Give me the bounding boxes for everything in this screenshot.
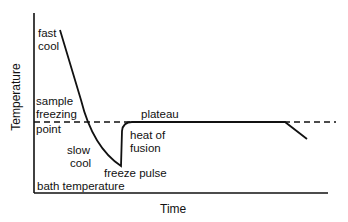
sample-freezing-point-label-line2: freezing: [36, 108, 77, 120]
heat-of-fusion-label-line2: fusion: [130, 142, 161, 154]
fast-cool-label-line2: cool: [38, 40, 59, 52]
sample-freezing-point-label-line1: sample: [36, 95, 73, 107]
plateau-label: plateau: [141, 108, 179, 120]
x-axis-label: Time: [160, 203, 186, 215]
fast-cool-label-line1: fast: [38, 27, 57, 39]
temperature-curve: [60, 30, 307, 166]
y-axis-label: Temperature: [9, 57, 23, 137]
slow-cool-label-line1: slow: [67, 144, 90, 156]
freezing-curve-diagram: Temperature Time fast cool sample freezi…: [0, 0, 348, 222]
bath-temperature-label: bath temperature: [37, 180, 125, 192]
slow-cool-label-line2: cool: [70, 157, 91, 169]
heat-of-fusion-label-line1: heat of: [130, 129, 165, 141]
sample-freezing-point-label-line3: point: [36, 123, 61, 135]
freeze-pulse-label: freeze pulse: [104, 167, 167, 179]
